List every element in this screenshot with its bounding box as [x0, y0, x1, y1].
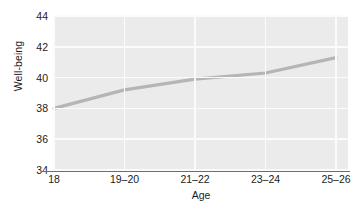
- y-tick-label: 36: [2, 133, 48, 145]
- vertical-gridline: [53, 16, 55, 170]
- y-tick-label: 44: [2, 10, 48, 22]
- vertical-gridline: [265, 16, 267, 170]
- y-tick-label: 38: [2, 102, 48, 114]
- y-axis-tick-labels: 343638404244: [0, 16, 48, 170]
- vertical-gridline: [124, 16, 126, 170]
- data-series-line: [54, 16, 348, 170]
- y-tick-label: 40: [2, 72, 48, 84]
- y-tick-label: 34: [2, 164, 48, 176]
- x-axis-line: [42, 171, 350, 172]
- horizontal-gridline: [54, 15, 348, 17]
- horizontal-gridline: [54, 138, 348, 140]
- chart-figure: Well-being 343638404244 1819–2021–2223–2…: [0, 0, 362, 214]
- x-tick-label: 21–22: [180, 173, 209, 185]
- plot-area: [54, 16, 348, 170]
- horizontal-gridline: [54, 77, 348, 79]
- horizontal-gridline: [54, 108, 348, 110]
- y-tick-label: 42: [2, 41, 48, 53]
- x-axis-tick-labels: 1819–2021–2223–2425–26: [54, 173, 348, 189]
- x-tick-label: 25–26: [321, 173, 350, 185]
- x-tick-label: 18: [48, 173, 60, 185]
- x-tick-label: 23–24: [251, 173, 280, 185]
- vertical-gridline: [335, 16, 337, 170]
- x-tick-label: 19–20: [110, 173, 139, 185]
- horizontal-gridline: [54, 46, 348, 48]
- x-axis-title: Age: [54, 189, 348, 201]
- vertical-gridline: [194, 16, 196, 170]
